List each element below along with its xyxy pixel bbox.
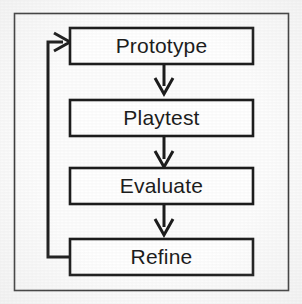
iterative-cycle-diagram: Prototype Playtest Evaluate Refine xyxy=(0,0,302,304)
node-refine[interactable]: Refine xyxy=(70,239,253,275)
figure-container: Prototype Playtest Evaluate Refine xyxy=(0,0,302,304)
node-evaluate-label: Evaluate xyxy=(120,174,203,197)
node-playtest-label: Playtest xyxy=(123,106,199,129)
node-evaluate[interactable]: Evaluate xyxy=(70,168,253,204)
node-refine-label: Refine xyxy=(131,245,193,268)
node-prototype-label: Prototype xyxy=(116,34,208,57)
node-playtest[interactable]: Playtest xyxy=(70,100,253,136)
node-prototype[interactable]: Prototype xyxy=(70,28,253,64)
